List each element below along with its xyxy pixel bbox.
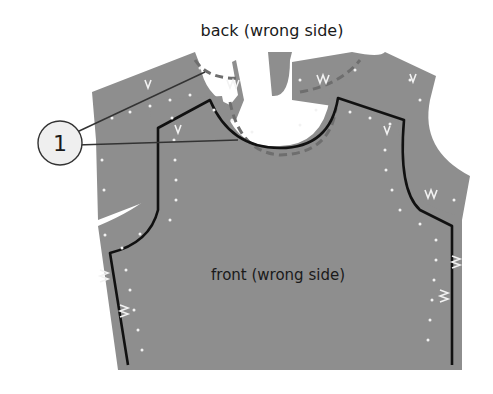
callout-number: 1 [53, 131, 67, 156]
front-label: front (wrong side) [211, 266, 345, 284]
garment-diagram: 1 back (wrong side) front (wrong side) [0, 0, 493, 394]
back-neck-slit [242, 52, 262, 95]
back-label: back (wrong side) [201, 21, 344, 40]
